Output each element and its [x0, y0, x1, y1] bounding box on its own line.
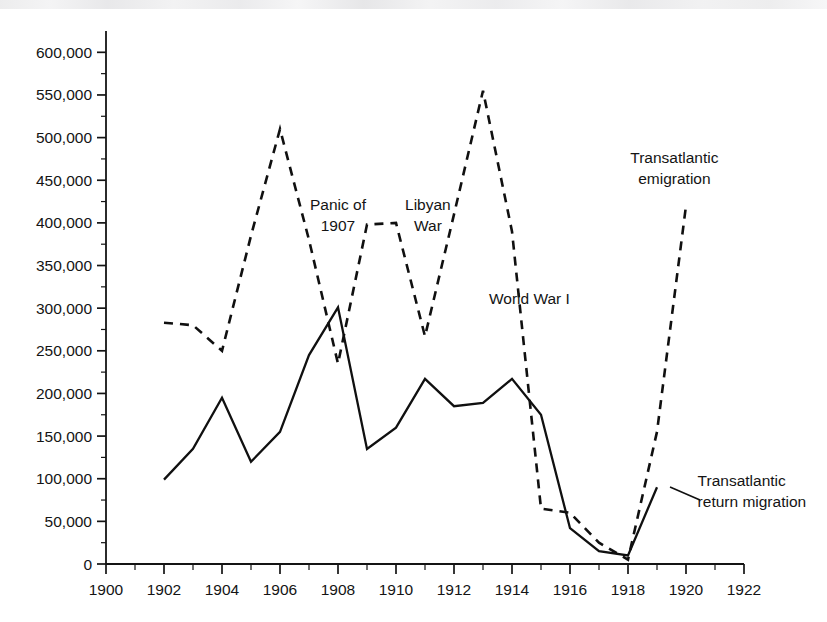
- line-chart-figure: 050,000100,000150,000200,000250,000300,0…: [0, 0, 827, 622]
- y-axis-tick-labels: 050,000100,000150,000200,000250,000300,0…: [36, 44, 92, 573]
- annotation-label: return migration: [698, 493, 807, 510]
- y-axis: 050,000100,000150,000200,000250,000300,0…: [36, 31, 106, 573]
- y-tick-label: 250,000: [36, 342, 92, 359]
- x-tick-label: 1918: [611, 581, 645, 598]
- x-tick-label: 1906: [263, 581, 297, 598]
- x-tick-label: 1922: [727, 581, 761, 598]
- x-tick-label: 1910: [379, 581, 414, 598]
- annotation-label: emigration: [638, 170, 710, 187]
- y-tick-label: 550,000: [36, 86, 92, 103]
- x-axis-tick-labels: 1900190219041906190819101912191419161918…: [89, 581, 761, 598]
- annotation-label: Libyan: [405, 196, 451, 213]
- x-axis: 1900190219041906190819101912191419161918…: [89, 564, 761, 598]
- y-tick-label: 500,000: [36, 129, 92, 146]
- return-migration-leader-line: [670, 487, 700, 500]
- y-tick-label: 600,000: [36, 44, 92, 61]
- x-axis-ticks: [106, 564, 744, 574]
- plot-area: [164, 91, 686, 560]
- x-tick-label: 1900: [89, 581, 124, 598]
- annotation-label: War: [414, 217, 442, 234]
- annotation-label: Panic of: [310, 196, 367, 213]
- annotation-label: 1907: [321, 217, 355, 234]
- annotation-label: Transatlantic: [698, 472, 786, 489]
- x-tick-label: 1902: [147, 581, 181, 598]
- y-tick-label: 450,000: [36, 172, 92, 189]
- y-tick-label: 400,000: [36, 214, 92, 231]
- y-tick-label: 200,000: [36, 385, 92, 402]
- x-tick-label: 1912: [437, 581, 471, 598]
- x-tick-label: 1920: [669, 581, 704, 598]
- x-tick-label: 1904: [205, 581, 240, 598]
- chart-annotations: Panic of1907LibyanWarWorld War ITransatl…: [310, 149, 806, 509]
- series-transatlantic-return-migration: [164, 307, 657, 555]
- y-tick-label: 50,000: [45, 513, 93, 530]
- y-tick-label: 300,000: [36, 300, 92, 317]
- y-tick-label: 150,000: [36, 428, 92, 445]
- y-tick-label: 100,000: [36, 470, 92, 487]
- chart-svg: 050,000100,000150,000200,000250,000300,0…: [0, 0, 827, 622]
- annotation-label: Transatlantic: [630, 149, 718, 166]
- x-tick-label: 1916: [553, 581, 587, 598]
- x-tick-label: 1914: [495, 581, 530, 598]
- x-tick-label: 1908: [321, 581, 355, 598]
- series-transatlantic-emigration: [164, 91, 686, 560]
- annotation-label: World War I: [489, 290, 570, 307]
- y-tick-label: 350,000: [36, 257, 92, 274]
- y-axis-ticks: [97, 52, 106, 564]
- y-tick-label: 0: [83, 556, 92, 573]
